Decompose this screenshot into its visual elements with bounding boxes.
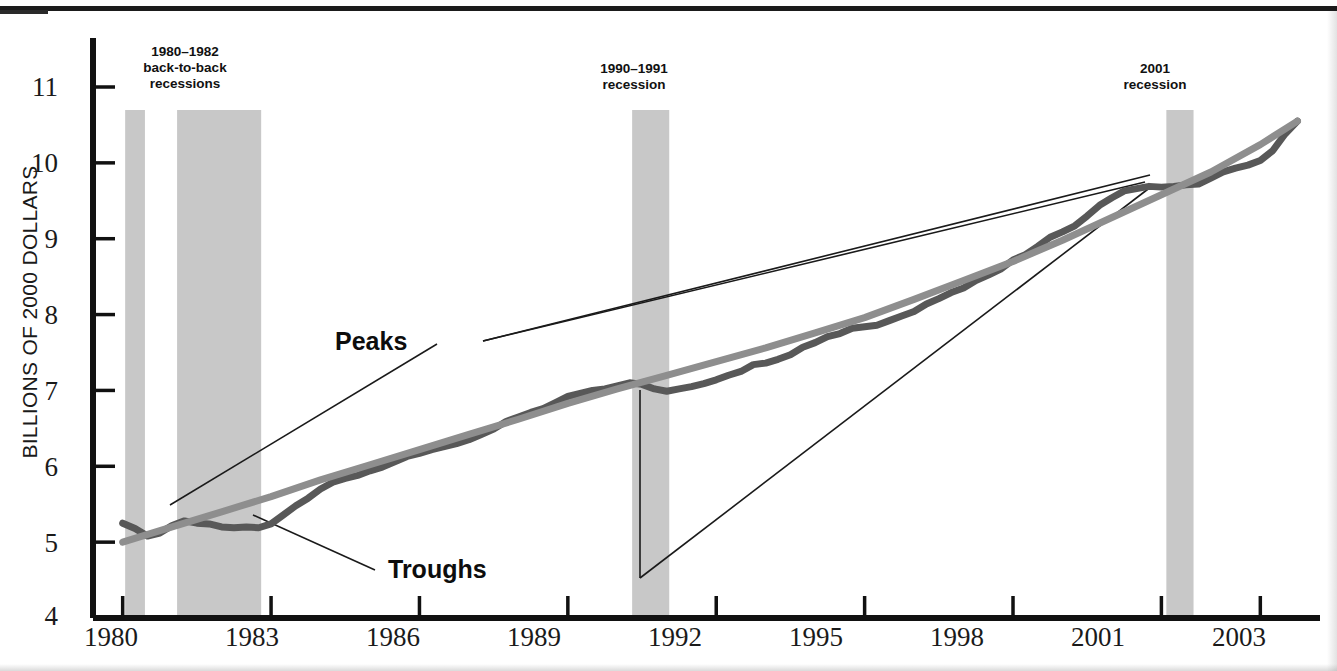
page-edge-shadow-bottom [0, 664, 1337, 671]
recession-band-1981-1982 [177, 110, 261, 618]
leader-peaks-1990 [483, 175, 1150, 341]
series-line-potential-gdp [123, 121, 1298, 542]
plot-area [0, 0, 1337, 671]
series-line-real-gdp [123, 121, 1298, 536]
leader-peaks-2000 [483, 182, 1145, 341]
recession-bands [125, 110, 1193, 618]
axes [93, 38, 1320, 618]
page-edge-shadow-right [1327, 11, 1337, 671]
recession-band-1990-1991 [632, 110, 669, 618]
gdp-recession-chart: BILLIONS OF 2000 DOLLARS 11 10 9 8 7 6 5… [0, 0, 1337, 671]
data-series [123, 121, 1298, 542]
